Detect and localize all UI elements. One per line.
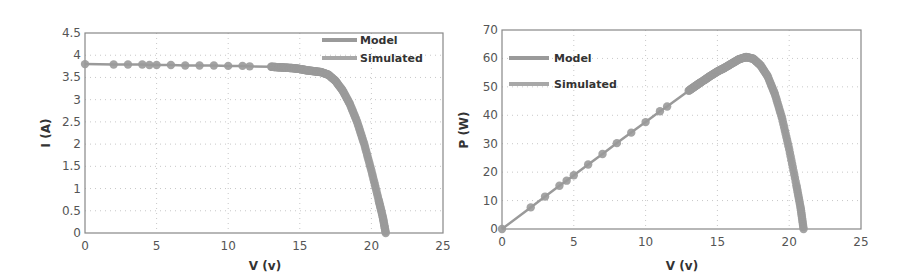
- simulated-marker: [109, 60, 117, 68]
- iv-x-axis-label: V (v): [249, 259, 281, 273]
- iv-legend: Model Simulated: [322, 34, 423, 65]
- legend-swatch-simulated: [509, 82, 549, 86]
- simulated-marker: [527, 203, 535, 211]
- legend-swatch-simulated: [322, 56, 357, 60]
- pv-simulated-markers: [498, 53, 808, 233]
- x-tick-label: 0: [81, 239, 89, 253]
- y-tick-label: 2: [73, 137, 81, 151]
- y-tick-label: 50: [483, 80, 498, 94]
- simulated-marker: [570, 171, 578, 179]
- simulated-marker: [167, 61, 175, 69]
- x-tick-label: 20: [364, 239, 379, 253]
- simulated-marker: [498, 225, 506, 233]
- x-tick-label: 0: [498, 235, 506, 249]
- simulated-marker: [562, 176, 570, 184]
- iv-chart: 00.511.522.533.544.5 0510152025 V (v) I …: [0, 0, 450, 280]
- simulated-marker: [210, 61, 218, 69]
- pv-y-ticks: 010203040506070: [483, 23, 498, 236]
- y-tick-label: 10: [483, 194, 498, 208]
- simulated-marker: [584, 160, 592, 168]
- y-tick-label: 0: [490, 222, 498, 236]
- y-tick-label: 3: [73, 93, 81, 107]
- x-tick-label: 25: [435, 239, 450, 253]
- pv-x-axis-label: V (v): [666, 259, 698, 273]
- simulated-marker: [195, 61, 203, 69]
- iv-y-ticks: 00.511.522.533.544.5: [62, 26, 81, 240]
- pv-y-axis-label: P (W): [457, 111, 471, 148]
- simulated-marker: [245, 62, 253, 70]
- pv-x-ticks: 0510152025: [498, 235, 868, 249]
- y-tick-label: 20: [483, 165, 498, 179]
- simulated-marker: [138, 60, 146, 68]
- x-tick-label: 25: [853, 235, 868, 249]
- y-tick-label: 4.5: [62, 26, 81, 40]
- pv-chart: 010203040506070 0510152025 V (v) P (W) M…: [450, 0, 907, 280]
- legend-swatch-model: [509, 56, 549, 60]
- simulated-marker: [663, 102, 671, 110]
- legend-label-model: Model: [360, 34, 398, 47]
- simulated-marker: [656, 107, 664, 115]
- y-tick-label: 4: [73, 48, 81, 62]
- legend-label-simulated: Simulated: [360, 52, 423, 65]
- x-tick-label: 15: [710, 235, 725, 249]
- simulated-marker: [627, 128, 635, 136]
- simulated-marker: [124, 60, 132, 68]
- simulated-marker: [81, 60, 89, 68]
- simulated-marker: [555, 182, 563, 190]
- x-tick-label: 5: [153, 239, 161, 253]
- x-tick-label: 10: [638, 235, 653, 249]
- simulated-marker: [145, 61, 153, 69]
- iv-x-ticks: 0510152025: [81, 239, 450, 253]
- x-tick-label: 20: [782, 235, 797, 249]
- simulated-marker: [799, 225, 807, 233]
- pv-legend: Model Simulated: [509, 52, 617, 91]
- y-tick-label: 0: [73, 226, 81, 240]
- simulated-marker: [598, 150, 606, 158]
- iv-y-axis-label: I (A): [39, 119, 53, 148]
- y-tick-label: 3.5: [62, 70, 81, 84]
- y-tick-label: 1.5: [62, 159, 81, 173]
- y-tick-label: 30: [483, 137, 498, 151]
- simulated-marker: [152, 61, 160, 69]
- legend-swatch-model: [322, 38, 357, 42]
- y-tick-label: 70: [483, 23, 498, 37]
- simulated-marker: [613, 139, 621, 147]
- y-tick-label: 40: [483, 108, 498, 122]
- simulated-marker: [238, 62, 246, 70]
- simulated-marker: [641, 118, 649, 126]
- y-tick-label: 2.5: [62, 115, 81, 129]
- legend-label-simulated: Simulated: [554, 78, 617, 91]
- simulated-marker: [382, 229, 390, 237]
- legend-label-model: Model: [554, 52, 592, 65]
- y-tick-label: 60: [483, 51, 498, 65]
- y-tick-label: 0.5: [62, 204, 81, 218]
- x-tick-label: 10: [221, 239, 236, 253]
- simulated-marker: [181, 61, 189, 69]
- y-tick-label: 1: [73, 182, 81, 196]
- simulated-marker: [224, 62, 232, 70]
- simulated-marker: [541, 192, 549, 200]
- x-tick-label: 5: [570, 235, 578, 249]
- x-tick-label: 15: [292, 239, 307, 253]
